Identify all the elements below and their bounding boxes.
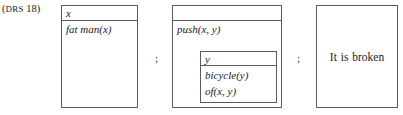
drs-condition: push(x, y) (177, 22, 277, 37)
drs-universe-bicycle: y (201, 52, 276, 66)
label-drs-smallcaps: DRS (6, 4, 24, 14)
drs-figure: (DRS 18) x fat man(x) ; push(x, y) y bic… (0, 0, 403, 115)
drs-conditions-bicycle: bicycle(y) of(x, y) (201, 66, 276, 99)
drs-universe-push (173, 6, 281, 21)
drs-box-it-is-broken: It is broken (316, 5, 398, 108)
drs-box-fat-man: x fat man(x) (61, 5, 138, 108)
separator-semicolon-2: ; (297, 52, 300, 64)
drs-condition: of(x, y) (205, 83, 272, 99)
drs-box-push: push(x, y) y bicycle(y) of(x, y) (172, 5, 282, 108)
drs-conditions-push: push(x, y) (173, 21, 281, 37)
label-number: 18) (24, 3, 41, 14)
drs-universe-fat-man: x (62, 6, 137, 21)
drs-sentence-text: It is broken (330, 50, 384, 64)
drs-conditions-fat-man: fat man(x) (62, 21, 137, 37)
separator-semicolon-1: ; (155, 52, 158, 64)
drs-box-bicycle: y bicycle(y) of(x, y) (200, 51, 277, 103)
example-number-label: (DRS 18) (2, 2, 40, 16)
drs-condition: fat man(x) (66, 22, 133, 37)
drs-condition: bicycle(y) (205, 67, 272, 83)
